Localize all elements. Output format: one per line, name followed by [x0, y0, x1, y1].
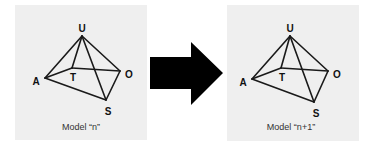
node-label-u: U: [78, 23, 85, 34]
right-arrow-icon: [150, 42, 223, 105]
panel-model-n-plus-1: UATOS Model “n+1”: [227, 5, 359, 141]
node-label-t: T: [279, 72, 285, 83]
node-label-a: A: [239, 77, 246, 88]
node-label-t: T: [70, 72, 76, 83]
node-label-u: U: [286, 23, 293, 34]
model-transition-diagram: UATOS Model “n” UATOS Model “n+1”: [0, 0, 372, 149]
node-label-s: S: [313, 108, 320, 119]
node-label-o: O: [333, 69, 341, 80]
node-label-o: O: [125, 69, 133, 80]
panel-caption: Model “n”: [62, 122, 100, 132]
panel-caption: Model “n+1”: [267, 122, 315, 132]
node-label-s: S: [105, 106, 112, 117]
node-label-a: A: [32, 76, 39, 87]
panel-model-n: UATOS Model “n”: [15, 5, 147, 140]
